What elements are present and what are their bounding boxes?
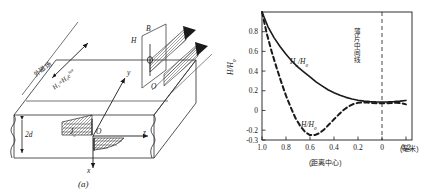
y-axis-label: y: [127, 68, 130, 77]
origin-label: O: [96, 127, 101, 136]
slab-right-break-edge: [151, 115, 156, 158]
dashed-curve-label-main: H/H: [301, 120, 314, 129]
dashed-curve-label: H/H0: [301, 120, 316, 131]
figure-root: 外磁场 H₁=H₀eiωt 2d Js O x y z H B O (a) 1.…: [0, 0, 430, 196]
current-density-sub: s: [73, 133, 75, 138]
solid-curve-label-sub-0: 0: [305, 63, 308, 68]
y-tick-label: 0.2: [249, 86, 259, 95]
panel-b-field-profile-chart: 1.00.80.60.40.200.2 0.80.60.40.20-0.2-0.…: [215, 0, 430, 196]
current-density-label: Js: [70, 127, 75, 138]
slab-geometry-svg: [0, 0, 215, 196]
x-tick-label: 0: [380, 143, 384, 152]
y-axis-label-main: H/H: [226, 62, 235, 75]
dashed-curve-label-sub: 0: [314, 126, 317, 131]
slab-left-break-edge: [11, 115, 16, 158]
x-axis-unit: (毫米): [400, 143, 419, 153]
x-tick-label: 0.8: [281, 143, 291, 152]
y-tick-label: -0.2: [246, 126, 258, 135]
y-tick-label: -0.3: [246, 136, 258, 145]
solid-curve-label: Ha/H0: [290, 57, 308, 68]
plot-frame: [262, 12, 412, 140]
inset-h-label: H: [131, 36, 136, 45]
x-axis-label: (距离中心): [309, 157, 342, 167]
y-tick-label: 0.8: [249, 27, 259, 36]
coordinate-axes: [93, 78, 148, 168]
inset-b-label: B: [146, 24, 151, 33]
panel-a-caption: (a): [78, 179, 89, 189]
z-axis-label: z: [143, 128, 146, 137]
x-tick-label: 1.0: [257, 143, 267, 152]
thickness-label: 2d: [25, 130, 33, 139]
current-density-profile-lower: [94, 138, 124, 151]
y-axis-label-sub: 0: [232, 60, 237, 63]
current-density-profile-upper: [62, 115, 92, 135]
x-axis-label: x: [87, 166, 90, 175]
x-tick-label: 0.2: [353, 143, 363, 152]
y-tick-label: 0.4: [249, 67, 259, 76]
inset-origin-label: O: [151, 82, 156, 91]
center-line-label: 薄片中间线: [351, 28, 361, 63]
y-tick-label: 0.6: [249, 47, 259, 56]
panel-a-slab-diagram: 外磁场 H₁=H₀eiωt 2d Js O x y z H B O (a): [0, 0, 215, 196]
y-tick-label: 0: [254, 106, 258, 115]
y-axis-label: H/H0: [226, 60, 237, 75]
x-tick-label: 0.6: [305, 143, 315, 152]
x-tick-label: 0.4: [329, 143, 339, 152]
